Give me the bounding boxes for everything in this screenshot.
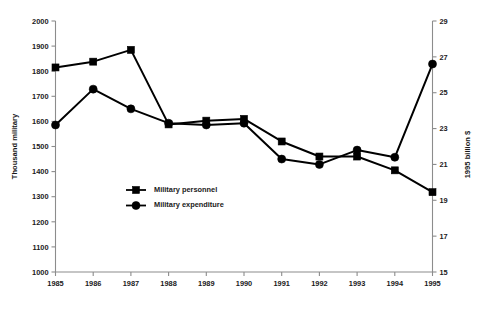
left-axis-ticks: 1000110012001300140015001600170018001900… xyxy=(32,17,55,277)
left-tick-label: 1600 xyxy=(32,117,48,126)
data-point-circle xyxy=(202,121,210,129)
data-point-square xyxy=(429,189,436,196)
legend-marker-circle xyxy=(132,202,140,210)
data-point-circle xyxy=(89,85,97,93)
right-tick-label: 23 xyxy=(440,124,448,133)
right-axis-ticks: 1517192123252729 xyxy=(433,17,448,277)
chart-container: 1000110012001300140015001600170018001900… xyxy=(0,0,487,322)
data-point-circle xyxy=(391,153,399,161)
right-tick-label: 17 xyxy=(440,232,448,241)
data-point-square xyxy=(52,64,59,71)
left-tick-label: 1200 xyxy=(32,218,48,227)
data-point-circle xyxy=(429,60,437,68)
right-tick-label: 19 xyxy=(440,196,448,205)
data-point-circle xyxy=(165,119,173,127)
data-point-circle xyxy=(127,105,135,113)
axis-lines xyxy=(56,21,433,272)
dual-axis-line-chart: 1000110012001300140015001600170018001900… xyxy=(0,0,487,322)
x-tick-label: 1986 xyxy=(85,279,101,288)
x-tick-label: 1987 xyxy=(123,279,139,288)
right-tick-label: 27 xyxy=(440,53,448,62)
left-axis-title: Thousand military xyxy=(10,113,19,179)
left-tick-label: 1400 xyxy=(32,167,48,176)
x-tick-label: 1991 xyxy=(273,279,289,288)
x-tick-label: 1988 xyxy=(160,279,176,288)
left-tick-label: 1800 xyxy=(32,67,48,76)
right-tick-label: 21 xyxy=(440,160,448,169)
data-point-square xyxy=(127,46,134,53)
legend-label-personnel: Military personnel xyxy=(154,185,217,194)
series-line-circle xyxy=(56,64,433,164)
chart-legend: Military personnelMilitary expenditure xyxy=(126,185,224,210)
data-point-circle xyxy=(278,155,286,163)
data-point-square xyxy=(90,58,97,65)
x-tick-label: 1985 xyxy=(47,279,63,288)
left-tick-label: 1700 xyxy=(32,92,48,101)
left-tick-label: 1500 xyxy=(32,142,48,151)
data-point-square xyxy=(391,167,398,174)
left-tick-label: 1100 xyxy=(32,243,48,252)
left-tick-label: 2000 xyxy=(32,17,48,26)
left-tick-label: 1900 xyxy=(32,42,48,51)
legend-marker-square xyxy=(133,187,140,194)
x-tick-label: 1990 xyxy=(236,279,252,288)
left-tick-label: 1300 xyxy=(32,192,48,201)
right-tick-label: 25 xyxy=(440,88,448,97)
x-tick-label: 1989 xyxy=(198,279,214,288)
data-point-circle xyxy=(52,121,60,129)
data-point-square xyxy=(278,138,285,145)
right-tick-label: 15 xyxy=(440,268,448,277)
right-tick-label: 29 xyxy=(440,17,448,26)
data-point-circle xyxy=(240,119,248,127)
data-point-circle xyxy=(353,146,361,154)
x-tick-label: 1995 xyxy=(424,279,440,288)
series-group xyxy=(52,46,437,195)
left-tick-label: 1000 xyxy=(32,268,48,277)
legend-label-expenditure: Military expenditure xyxy=(154,200,224,209)
data-point-square xyxy=(316,153,323,160)
right-axis-title: 1995 billion $ xyxy=(463,130,472,178)
x-tick-label: 1994 xyxy=(387,279,404,288)
data-point-circle xyxy=(315,160,323,168)
x-tick-label: 1992 xyxy=(311,279,327,288)
x-tick-label: 1993 xyxy=(349,279,365,288)
x-axis-ticks: 1985198619871988198919901991199219931994… xyxy=(47,272,440,288)
